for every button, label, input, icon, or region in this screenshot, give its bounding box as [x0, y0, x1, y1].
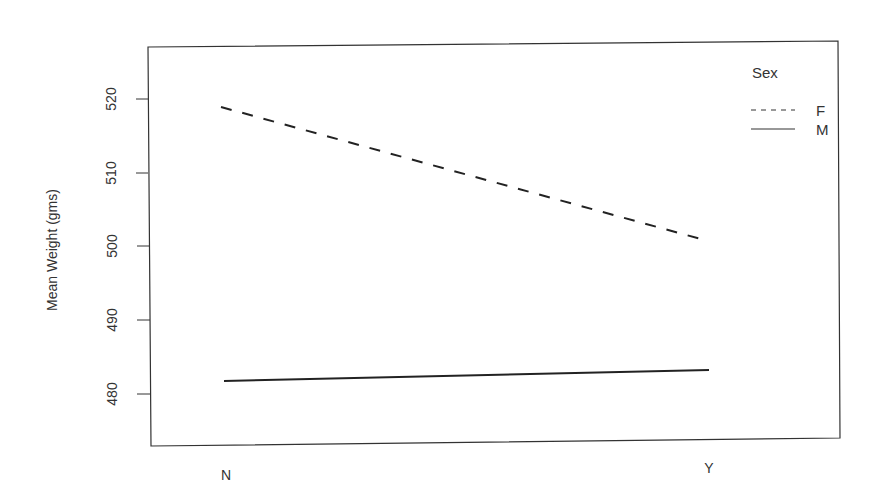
legend: Sex F M [751, 64, 829, 138]
plot-frame [148, 41, 840, 446]
y-tick-520: 520 [103, 87, 119, 111]
y-tick-500: 500 [104, 234, 120, 258]
y-axis: 520 510 500 490 480 Mean Weight (gms) [44, 87, 150, 406]
y-tick-480: 480 [104, 382, 120, 406]
series-M-line [224, 370, 709, 381]
x-tick-N: N [221, 467, 231, 483]
legend-title: Sex [752, 64, 778, 81]
y-tick-510: 510 [103, 161, 119, 185]
legend-F-label: F [816, 102, 825, 119]
series-F-line [221, 107, 708, 241]
legend-M-label: M [816, 121, 829, 138]
y-axis-title: Mean Weight (gms) [44, 189, 60, 311]
y-tick-490: 490 [104, 308, 120, 332]
x-tick-Y: Y [704, 460, 714, 476]
interaction-plot: 520 510 500 490 480 Mean Weight (gms) N … [0, 0, 875, 487]
